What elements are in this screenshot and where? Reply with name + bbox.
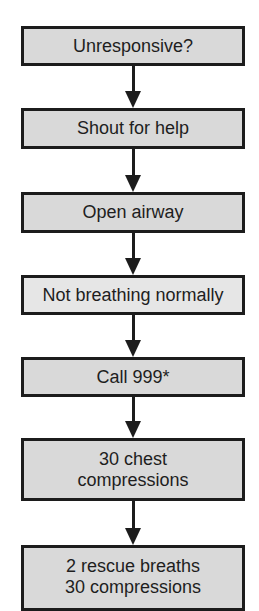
arrow-down-icon — [125, 315, 141, 357]
step-30-chest-compressions: 30 chest compressions — [21, 438, 245, 501]
step-label: Unresponsive? — [73, 36, 193, 57]
step-open-airway: Open airway — [21, 192, 245, 233]
step-unresponsive: Unresponsive? — [21, 26, 245, 66]
step-label: 2 rescue breaths 30 compressions — [65, 556, 201, 598]
step-label: 30 chest compressions — [77, 449, 188, 491]
arrow-down-icon — [125, 397, 141, 438]
step-label: Shout for help — [77, 118, 189, 139]
step-call-999: Call 999* — [21, 357, 245, 397]
step-label: Not breathing normally — [42, 285, 223, 306]
step-label: Call 999* — [96, 367, 169, 388]
step-shout-for-help: Shout for help — [21, 108, 245, 149]
arrow-down-icon — [125, 66, 141, 108]
step-label: Open airway — [82, 202, 183, 223]
step-rescue-breaths-and-compressions: 2 rescue breaths 30 compressions — [21, 545, 245, 611]
arrow-down-icon — [125, 233, 141, 275]
arrow-down-icon — [125, 501, 141, 545]
step-not-breathing-normally: Not breathing normally — [21, 275, 245, 315]
arrow-down-icon — [125, 149, 141, 192]
